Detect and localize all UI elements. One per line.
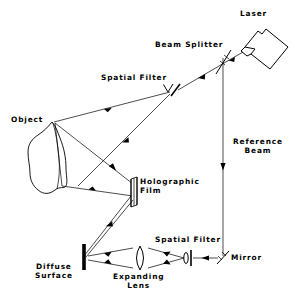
label-spatial-filter-bottom: Spatial Filter xyxy=(155,236,221,245)
label-holographic-film: Holographic Film xyxy=(140,178,200,195)
expanding-lens xyxy=(137,246,144,270)
holographic-film xyxy=(131,177,137,207)
label-diffuse-surface: Diffuse Surface xyxy=(35,263,73,280)
label-laser: Laser xyxy=(240,10,267,19)
beam-splitter-to-spatial-filter xyxy=(178,66,219,90)
beam-mirror-to-spatial-filter xyxy=(193,255,218,260)
spatial-filter-bottom xyxy=(184,250,191,266)
beam-object-illumination xyxy=(54,92,170,186)
mirror xyxy=(217,251,229,264)
label-spatial-filter-top: Spatial Filter xyxy=(101,74,167,83)
beam-splitter xyxy=(216,50,231,74)
laser-source xyxy=(241,29,288,69)
beam-spatial-filter-to-lens xyxy=(148,248,184,268)
diffuse-surface xyxy=(82,244,86,270)
beam-diffuser-to-film xyxy=(84,196,133,257)
object-shape xyxy=(28,122,67,193)
holography-diagram: Laser Beam Splitter Spatial Filter Objec… xyxy=(0,0,295,297)
label-expanding-lens: Expanding Lens xyxy=(113,273,164,290)
spatial-filter-top xyxy=(164,84,181,96)
label-mirror: Mirror xyxy=(231,254,262,263)
beam-reference-vertical xyxy=(220,58,225,256)
label-object: Object xyxy=(11,116,43,125)
label-reference-beam: Reference Beam xyxy=(233,138,283,155)
beam-lens-to-diffuser xyxy=(88,248,133,268)
label-beam-splitter: Beam Splitter xyxy=(155,41,223,50)
